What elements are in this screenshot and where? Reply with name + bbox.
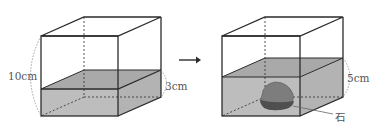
right-arrow-icon [179, 57, 201, 64]
stone-label: 石 [335, 111, 345, 123]
left-water-label: 3cm [165, 80, 188, 92]
right-container: 5cm 石 [222, 17, 370, 123]
left-container: 10cm 3cm [8, 17, 188, 116]
left-water-front [41, 89, 118, 116]
left-height-label: 10cm [8, 70, 37, 82]
left-box-top [41, 17, 161, 36]
right-water-label: 5cm [347, 72, 370, 84]
right-box-top [222, 17, 343, 36]
diagram: 10cm 3cm 5cm 石 [0, 0, 379, 132]
